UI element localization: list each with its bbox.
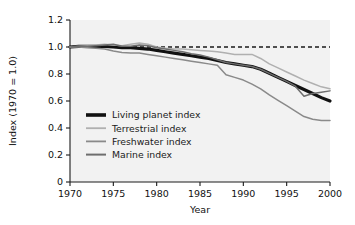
y-tick-label: 1.2 [48,14,63,25]
legend-label-living-planet-index: Living planet index [112,109,201,120]
x-tick-label: 1975 [101,188,125,199]
chart-figure: 00.20.40.60.81.01.2 19701975198019851990… [0,0,355,225]
y-tick-label: 0.4 [48,122,63,133]
legend-label-freshwater-index: Freshwater index [112,136,192,147]
y-tick-label: 0.8 [48,68,63,79]
x-axis-label: Year [189,204,210,215]
y-tick-label: 0 [57,176,63,187]
x-tick-label: 1970 [58,188,82,199]
x-tick-label: 1980 [145,188,169,199]
x-tick-label: 1995 [275,188,299,199]
y-tick-label: 0.6 [48,95,63,106]
y-axis-label: Index (1970 = 1.0) [7,56,18,146]
x-tick-label: 1985 [188,188,212,199]
legend-label-marine-index: Marine index [112,149,173,160]
y-tick-label: 0.2 [48,149,63,160]
x-tick-label: 1990 [231,188,255,199]
y-tick-label: 1.0 [48,41,63,52]
line-chart: 00.20.40.60.81.01.2 19701975198019851990… [0,0,355,225]
legend-label-terrestrial-index: Terrestrial index [111,123,187,134]
x-tick-label: 2000 [318,188,342,199]
